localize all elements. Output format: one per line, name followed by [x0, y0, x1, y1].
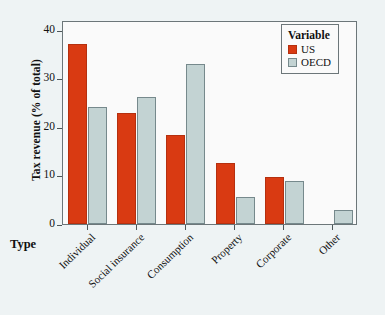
legend: Variable US OECD	[281, 24, 339, 74]
bar-group	[117, 22, 156, 224]
legend-label-us: US	[301, 43, 315, 55]
legend-swatch-oecd	[288, 58, 297, 67]
y-axis-tick-label: 30	[44, 71, 56, 83]
bar-group	[68, 22, 107, 224]
bar-oecd-consumption[interactable]	[186, 64, 205, 224]
x-axis-category-labels: IndividualSocial insuranceConsumptionPro…	[62, 231, 362, 311]
x-axis-tick-mark	[332, 225, 333, 230]
bar-group	[216, 22, 255, 224]
x-axis-title: Type	[10, 237, 36, 252]
y-axis-tick-label: 0	[49, 217, 55, 229]
y-axis-tick-label: 20	[44, 120, 56, 132]
legend-item-us[interactable]: US	[288, 43, 331, 55]
x-axis-tick-mark	[234, 225, 235, 230]
y-axis-tick-label: 10	[44, 168, 56, 180]
y-axis-tick-label: 40	[44, 23, 56, 35]
legend-swatch-us	[288, 45, 297, 54]
legend-title: Variable	[288, 29, 331, 41]
x-axis-tick-mark	[87, 225, 88, 230]
bar-oecd-individual[interactable]	[88, 107, 107, 224]
x-axis-tick-mark	[283, 225, 284, 230]
bar-oecd-social-insurance[interactable]	[137, 97, 156, 224]
legend-item-oecd[interactable]: OECD	[288, 56, 331, 68]
bar-us-individual[interactable]	[68, 44, 87, 224]
x-axis-tick-mark	[136, 225, 137, 230]
x-axis-tick-mark	[185, 225, 186, 230]
chart-figure: Tax revenue (% of total) 010203040 Indiv…	[0, 0, 385, 315]
legend-label-oecd: OECD	[301, 56, 331, 68]
y-axis-ticks: 010203040	[36, 21, 62, 225]
